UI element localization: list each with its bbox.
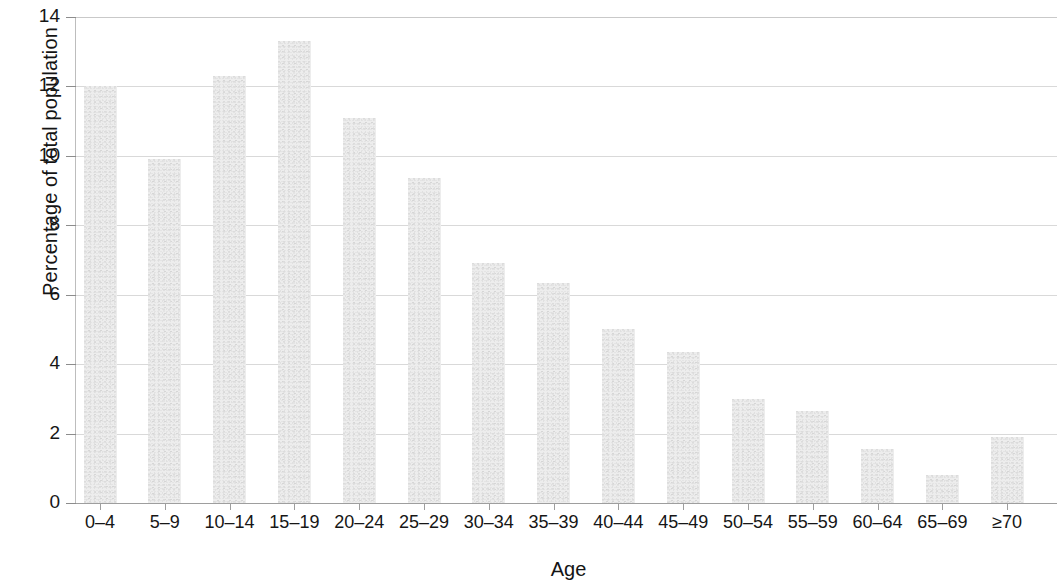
y-tick-label: 2: [14, 422, 60, 444]
y-tick-label: 0: [14, 491, 60, 513]
x-axis-title: Age: [0, 558, 1057, 581]
bar: [796, 411, 829, 503]
bar: [148, 159, 181, 503]
x-tick-mark: [294, 503, 295, 510]
bar: [861, 449, 894, 503]
bar: [667, 352, 700, 503]
x-tick-mark: [359, 503, 360, 510]
x-tick-mark: [1007, 503, 1008, 510]
x-tick-mark: [748, 503, 749, 510]
plot-area: [75, 17, 1057, 503]
bar: [408, 178, 441, 503]
y-tick-label: 12: [14, 74, 60, 96]
x-tick-mark: [554, 503, 555, 510]
x-tick-mark: [165, 503, 166, 510]
y-tick-label: 14: [14, 5, 60, 27]
x-tick-mark: [878, 503, 879, 510]
gridline: [75, 17, 1057, 18]
x-tick-mark: [489, 503, 490, 510]
y-tick-label: 10: [14, 144, 60, 166]
y-tick-mark: [66, 503, 76, 504]
bar-chart-figure: Percentage of total population 024681012…: [0, 0, 1057, 583]
x-axis-line: [75, 503, 1057, 504]
y-tick-mark: [66, 17, 76, 18]
bar: [991, 437, 1024, 503]
y-tick-label: 8: [14, 213, 60, 235]
y-tick-mark: [66, 434, 76, 435]
bar: [732, 399, 765, 503]
y-tick-mark: [66, 364, 76, 365]
bar: [213, 76, 246, 503]
x-tick-mark: [424, 503, 425, 510]
bar: [343, 118, 376, 503]
y-tick-mark: [66, 156, 76, 157]
y-tick-mark: [66, 225, 76, 226]
y-tick-mark: [66, 86, 76, 87]
bar: [278, 41, 311, 503]
x-tick-mark: [683, 503, 684, 510]
bar: [926, 475, 959, 503]
x-tick-mark: [942, 503, 943, 510]
x-tick-mark: [618, 503, 619, 510]
x-tick-mark: [100, 503, 101, 510]
x-tick-mark: [230, 503, 231, 510]
x-tick-label: ≥70: [962, 512, 1052, 533]
y-tick-label: 4: [14, 352, 60, 374]
y-tick-label: 6: [14, 283, 60, 305]
bar: [472, 263, 505, 503]
bar: [537, 283, 570, 503]
y-tick-mark: [66, 295, 76, 296]
bar: [84, 86, 117, 503]
x-tick-mark: [813, 503, 814, 510]
bar: [602, 329, 635, 503]
